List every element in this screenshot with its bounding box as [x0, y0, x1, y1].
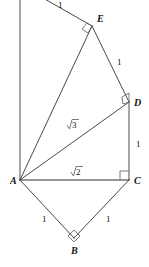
segment-b-c	[74, 180, 129, 238]
segment-a-e	[20, 26, 92, 180]
edge-label-group: 1 1 1 1 1 2 3	[42, 0, 141, 224]
right-angle-marker-c	[120, 171, 129, 180]
vertex-label-b: B	[70, 245, 78, 256]
segment-group	[20, 0, 129, 238]
vertex-label-c: C	[134, 175, 141, 186]
vertex-label-e: E	[96, 13, 104, 24]
segment-e-to-top-edge	[43, 0, 92, 26]
geometry-diagram: A B C D E 1 1 1 1 1 2 3	[0, 0, 149, 267]
segment-d-e	[92, 26, 129, 102]
edge-label-cd: 1	[136, 139, 141, 149]
vertex-label-a: A	[9, 175, 17, 186]
vertex-label-d: D	[133, 97, 141, 108]
right-angle-marker-e	[82, 23, 92, 33]
right-angle-group	[68, 23, 129, 242]
edge-label-ac-sqrt2: 2	[71, 167, 83, 178]
edge-label-ac-value: 2	[76, 167, 81, 177]
edge-label-de: 1	[117, 57, 122, 67]
edge-label-ab: 1	[42, 214, 47, 224]
segment-a-d	[20, 102, 129, 180]
edge-label-bc: 1	[106, 214, 111, 224]
edge-label-e-top: 1	[58, 0, 63, 10]
edge-label-ad-value: 3	[72, 120, 77, 130]
vertex-label-group: A B C D E	[9, 13, 141, 256]
segment-a-b	[20, 180, 74, 238]
right-angle-marker-b	[68, 230, 80, 242]
edge-label-ad-sqrt3: 3	[67, 120, 79, 131]
right-angle-marker-d	[122, 93, 129, 104]
